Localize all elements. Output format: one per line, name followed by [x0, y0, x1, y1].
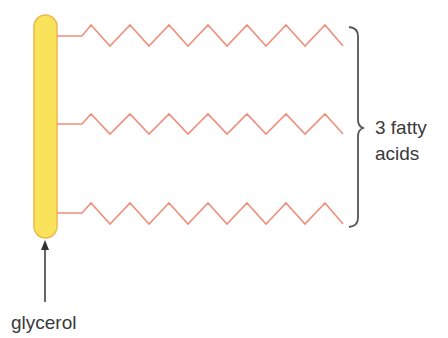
curly-brace-icon — [349, 27, 363, 227]
arrow-up-icon — [41, 240, 49, 250]
fatty-acid-chain-3 — [57, 203, 343, 224]
fatty-acid-chain-2 — [57, 114, 343, 134]
fatty-acid-chain-1 — [57, 25, 343, 46]
glycerol-label: glycerol — [11, 312, 76, 333]
fatty-acids-label-line1: 3 fatty — [375, 117, 427, 138]
triglyceride-diagram: 3 fatty acids glycerol — [0, 0, 448, 338]
glycerol-backbone — [34, 15, 57, 238]
fatty-acids-label-line2: acids — [375, 143, 419, 164]
